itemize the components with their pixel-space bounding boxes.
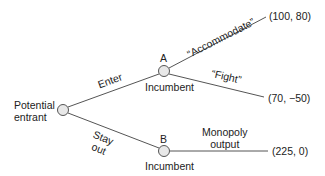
stay-out-branch: [68, 113, 159, 148]
entry-game-tree: Potential entrant A Incumbent B Incumben…: [0, 0, 325, 176]
monopoly-output-label: Monopoly output: [202, 126, 248, 150]
entrant-label: Potential entrant: [14, 99, 55, 123]
node-a: [159, 66, 170, 77]
entrant-label-line2: entrant: [14, 111, 55, 123]
payoff-fight: (70, −50): [268, 92, 310, 104]
payoff-monopoly: (225, 0): [272, 145, 308, 157]
node-a-letter: A: [160, 52, 167, 64]
entrant-label-line1: Potential: [14, 99, 55, 111]
node-b: [159, 146, 170, 157]
node-b-player: Incumbent: [145, 160, 194, 172]
monopoly-label-line1: Monopoly: [202, 126, 248, 138]
monopoly-label-line2: output: [202, 138, 248, 150]
payoff-accommodate: (100, 80): [269, 10, 311, 22]
entrant-node: [58, 105, 69, 116]
node-a-player: Incumbent: [145, 81, 194, 93]
node-b-letter: B: [160, 133, 167, 145]
